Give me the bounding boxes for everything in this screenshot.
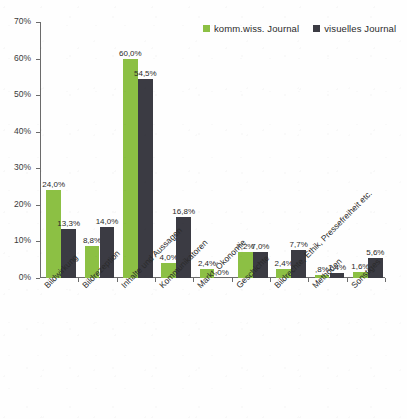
y-axis-tick: 20% (36, 205, 40, 206)
x-axis-tick (347, 278, 348, 282)
x-axis-tick (385, 278, 386, 282)
y-axis-tick: 50% (36, 95, 40, 96)
bar-value-label: 14,0% (96, 217, 119, 226)
x-axis-tick (155, 278, 156, 282)
bar-value-label: 5,6% (366, 248, 384, 257)
bar-value-label: 8,8% (83, 236, 101, 245)
y-axis-tick-label: 70% (14, 16, 31, 26)
y-axis-tick: 70% (36, 22, 40, 23)
y-axis-tick: 0% (36, 278, 40, 279)
y-axis-tick-label: 60% (14, 53, 31, 63)
bar-visuelles-journal[interactable]: 54,5% (138, 79, 153, 278)
bar-value-label: 13,3% (57, 219, 80, 228)
bar-group: 1,6%5,6% (353, 22, 383, 278)
x-axis-tick (78, 278, 79, 282)
bar-group: 24,0%13,3% (46, 22, 76, 278)
x-axis-tick (232, 278, 233, 282)
bar-group: 8,8%14,0% (85, 22, 115, 278)
x-axis-tick (117, 278, 118, 282)
bar-value-label: 4,0% (160, 253, 178, 262)
bar-value-label: 24,0% (42, 180, 65, 189)
y-axis-tick: 60% (36, 59, 40, 60)
y-axis-tick-label: 10% (14, 235, 31, 245)
y-axis-tick-label: 40% (14, 126, 31, 136)
bar-value-label: 16,8% (172, 207, 195, 216)
bar-chart-figure: komm.wiss. Journal visuelles Journal 0%1… (0, 0, 407, 419)
bar-group: 60,0%54,5% (123, 22, 153, 278)
x-axis-tick (193, 278, 194, 282)
y-axis-tick: 10% (36, 241, 40, 242)
y-axis-tick-label: 20% (14, 199, 31, 209)
y-axis-tick-label: 50% (14, 89, 31, 99)
bar-value-label: 7,0% (251, 242, 269, 251)
x-axis-tick (270, 278, 271, 282)
bar-value-label: 7,7% (290, 240, 308, 249)
y-axis-tick-label: 0% (19, 272, 31, 282)
y-axis-tick: 40% (36, 132, 40, 133)
y-axis-tick: 30% (36, 168, 40, 169)
bar-komm-wiss-journal[interactable]: 60,0% (123, 59, 138, 278)
bar-group: 2,4%7,7% (276, 22, 306, 278)
y-axis-tick-label: 30% (14, 162, 31, 172)
y-axis-line (40, 22, 41, 278)
bar-value-label: 54,5% (134, 69, 157, 78)
bar-value-label: 60,0% (119, 49, 142, 58)
x-axis-tick (308, 278, 309, 282)
plot-area: 0%10%20%30%40%50%60%70% 24,0%13,3%8,8%14… (40, 22, 385, 278)
